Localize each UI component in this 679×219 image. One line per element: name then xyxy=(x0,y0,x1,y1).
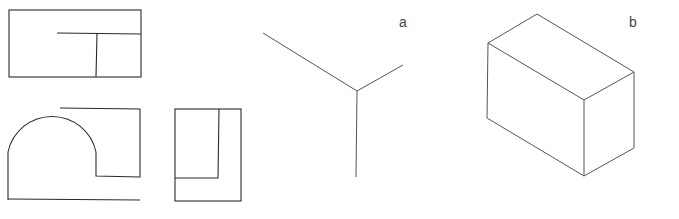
orthographic-to-isometric-diagram: a b xyxy=(0,0,679,219)
top-view xyxy=(9,10,141,77)
axis-vertical xyxy=(356,91,357,177)
top-view-vertical-edge xyxy=(96,33,97,77)
axis-left xyxy=(263,33,357,91)
isometric-axes: a xyxy=(263,14,407,177)
box-top-face xyxy=(488,14,634,100)
box-right-face xyxy=(584,72,634,176)
label-a: a xyxy=(399,14,407,30)
axis-right xyxy=(357,65,403,91)
front-view-outline xyxy=(8,108,140,200)
box-front-face xyxy=(487,43,584,176)
side-view-outline xyxy=(175,109,241,201)
isometric-box: b xyxy=(487,14,637,176)
top-view-hidden-edge xyxy=(57,33,141,34)
side-view xyxy=(175,109,241,201)
label-b: b xyxy=(629,14,637,30)
front-view xyxy=(8,108,140,200)
front-view-bottom-edge xyxy=(8,199,140,200)
side-view-inner-edge xyxy=(175,109,219,178)
top-view-outline xyxy=(9,10,141,77)
